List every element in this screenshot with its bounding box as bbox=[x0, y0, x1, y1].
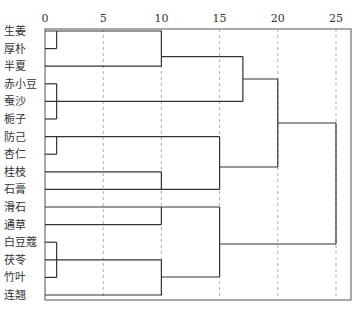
leaf-label: 茯苓 bbox=[4, 253, 26, 267]
leaf-label: 杏仁 bbox=[4, 148, 26, 161]
x-tick-label: 15 bbox=[213, 12, 227, 25]
x-tick-label: 25 bbox=[329, 12, 343, 25]
leaf-label: 滑石 bbox=[4, 201, 26, 214]
leaf-label: 防己 bbox=[4, 130, 26, 144]
dendrogram-svg: 0510152025生姜厚朴半夏赤小豆蚕沙栀子防己杏仁桂枝石膏滑石通草白豆蔻茯苓… bbox=[0, 0, 362, 313]
x-tick-label: 20 bbox=[271, 12, 285, 25]
leaf-label: 桂枝 bbox=[4, 165, 26, 179]
leaf-label: 竹叶 bbox=[4, 270, 26, 284]
leaf-label: 栀子 bbox=[4, 112, 26, 126]
leaf-label: 连翘 bbox=[4, 289, 26, 302]
leaf-label: 通草 bbox=[4, 219, 26, 232]
leaf-label: 厚朴 bbox=[4, 42, 26, 56]
leaf-label: 赤小豆 bbox=[4, 78, 37, 91]
x-tick-label: 0 bbox=[42, 12, 49, 25]
leaf-label: 生姜 bbox=[4, 24, 26, 38]
leaf-label: 半夏 bbox=[4, 59, 26, 73]
leaf-label: 蚕沙 bbox=[4, 95, 26, 108]
dendrogram-chart: 0510152025生姜厚朴半夏赤小豆蚕沙栀子防己杏仁桂枝石膏滑石通草白豆蔻茯苓… bbox=[0, 0, 362, 313]
leaf-label: 石膏 bbox=[4, 182, 26, 196]
x-tick-label: 10 bbox=[154, 12, 168, 25]
leaf-label: 白豆蔻 bbox=[4, 235, 37, 249]
x-tick-label: 5 bbox=[100, 12, 107, 25]
